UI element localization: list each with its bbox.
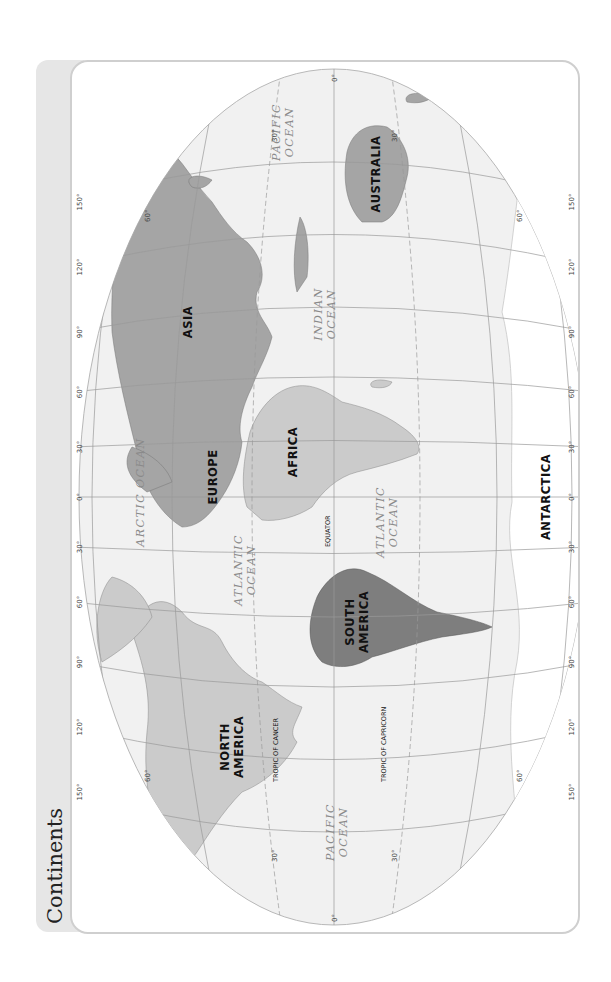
label-tropic-capricorn: TROPIC OF CAPRICORN: [380, 707, 388, 783]
svg-text:60°: 60°: [516, 770, 524, 782]
svg-text:60°: 60°: [144, 210, 152, 222]
svg-text:0°: 0°: [568, 493, 576, 501]
svg-text:120°: 120°: [568, 719, 576, 736]
svg-text:0°: 0°: [331, 914, 339, 922]
svg-text:120°: 120°: [76, 259, 84, 276]
svg-text:60°: 60°: [568, 596, 576, 608]
label-north-america-1: NORTH: [218, 723, 232, 771]
svg-text:60°: 60°: [568, 386, 576, 398]
label-south-america-2: AMERICA: [357, 591, 371, 653]
svg-text:60°: 60°: [144, 770, 152, 782]
svg-text:150°: 150°: [568, 194, 576, 211]
svg-text:90°: 90°: [76, 326, 84, 338]
svg-text:90°: 90°: [568, 326, 576, 338]
world-map: NORTH AMERICA SOUTH AMERICA EUROPE AFRIC…: [72, 62, 578, 932]
svg-text:120°: 120°: [76, 719, 84, 736]
label-africa: AFRICA: [286, 427, 300, 477]
label-indian-1: INDIAN: [312, 287, 325, 342]
svg-text:0°: 0°: [331, 74, 339, 82]
svg-text:90°: 90°: [568, 656, 576, 668]
svg-text:30°: 30°: [391, 850, 399, 862]
svg-text:60°: 60°: [516, 210, 524, 222]
svg-text:60°: 60°: [76, 596, 84, 608]
label-atlantic-south-2: OCEAN: [387, 497, 400, 548]
label-australia: AUSTRALIA: [369, 136, 383, 213]
svg-text:30°: 30°: [271, 130, 279, 142]
label-equator: EQUATOR: [324, 515, 332, 547]
svg-text:60°: 60°: [76, 386, 84, 398]
svg-text:30°: 30°: [568, 441, 576, 453]
label-atlantic-north-2: OCEAN: [245, 545, 258, 596]
svg-text:150°: 150°: [76, 194, 84, 211]
label-europe: EUROPE: [206, 449, 220, 504]
label-atlantic-south-1: ATLANTIC: [374, 486, 387, 559]
svg-text:90°: 90°: [76, 656, 84, 668]
label-north-america-2: AMERICA: [232, 716, 246, 778]
label-antarctica: ANTARCTICA: [539, 454, 553, 540]
svg-text:120°: 120°: [568, 259, 576, 276]
longitude-ticks-north: 150° 120° 90° 60° 30° 0° 30° 60° 90° 120…: [76, 194, 84, 801]
svg-text:150°: 150°: [568, 784, 576, 801]
label-indian-2: OCEAN: [325, 289, 338, 340]
svg-text:30°: 30°: [76, 441, 84, 453]
label-south-america-1: SOUTH: [343, 598, 357, 645]
page-title: Continents: [38, 624, 72, 932]
label-pacific-west-2: OCEAN: [337, 807, 350, 858]
svg-text:30°: 30°: [271, 850, 279, 862]
svg-text:30°: 30°: [568, 541, 576, 553]
map-panel: NORTH AMERICA SOUTH AMERICA EUROPE AFRIC…: [70, 60, 580, 934]
label-pacific-east-2: OCEAN: [283, 107, 296, 158]
label-tropic-cancer: TROPIC OF CANCER: [272, 718, 280, 783]
label-asia: ASIA: [181, 306, 195, 338]
label-arctic-ocean: ARCTIC OCEAN: [134, 437, 147, 547]
label-pacific-west-1: PACIFIC: [324, 803, 337, 862]
svg-text:30°: 30°: [76, 541, 84, 553]
svg-text:30°: 30°: [391, 130, 399, 142]
svg-text:150°: 150°: [76, 784, 84, 801]
label-atlantic-north-1: ATLANTIC: [232, 534, 245, 607]
svg-text:0°: 0°: [76, 493, 84, 501]
longitude-ticks-south: 150° 120° 90° 60° 30° 0° 30° 60° 90° 120…: [568, 194, 576, 801]
